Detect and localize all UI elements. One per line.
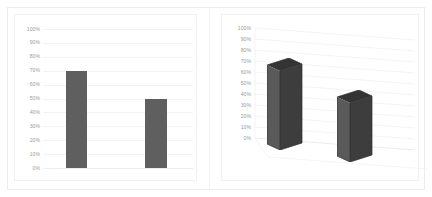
y-tick-label: 30% — [241, 103, 251, 108]
y-tick-label: 50% — [241, 81, 251, 86]
y-tick-label: 100% — [27, 27, 40, 32]
gridline-2d — [43, 29, 193, 30]
y-tick-label: 60% — [30, 82, 40, 87]
y-tick-label: 80% — [241, 48, 251, 53]
y-tick-label: 70% — [30, 68, 40, 73]
gridline-2d — [43, 57, 193, 58]
gridline-2d — [43, 43, 193, 44]
y-tick-label: 20% — [241, 114, 251, 119]
screenshot-root: 100% 90% 80% 70% 60% 50% 40% 30% 20% 10%… — [0, 0, 432, 197]
plot-area-2d — [14, 14, 197, 181]
y-tick-label: 90% — [30, 40, 40, 45]
bar3d-series-2[interactable] — [337, 90, 373, 162]
y-tick-label: 100% — [238, 26, 251, 31]
y-tick-label: 0% — [33, 166, 40, 171]
bar3d-series-1[interactable] — [267, 58, 303, 150]
bar3d-faces-2 — [337, 90, 373, 162]
bar-series-1[interactable] — [66, 71, 87, 168]
gridline-2d — [43, 168, 193, 169]
y-tick-label: 70% — [241, 59, 251, 64]
y-tick-label: 10% — [30, 152, 40, 157]
y-tick-label: 80% — [30, 54, 40, 59]
chart-panel-2d: 100% 90% 80% 70% 60% 50% 40% 30% 20% 10%… — [0, 0, 209, 197]
y-tick-label: 20% — [30, 138, 40, 143]
bar-series-2[interactable] — [145, 99, 167, 168]
y-tick-label: 50% — [30, 96, 40, 101]
y-tick-label: 60% — [241, 70, 251, 75]
y-tick-label: 40% — [30, 110, 40, 115]
chart-panel-3d: 100% 90% 80% 70% 60% 50% 40% 30% 20% 10%… — [210, 0, 432, 197]
y-tick-label: 40% — [241, 92, 251, 97]
y-tick-label: 90% — [241, 37, 251, 42]
bar3d-faces-1 — [267, 58, 303, 150]
y-tick-label: 30% — [30, 124, 40, 129]
y-tick-label: 0% — [244, 136, 251, 141]
y-tick-label: 10% — [241, 125, 251, 130]
